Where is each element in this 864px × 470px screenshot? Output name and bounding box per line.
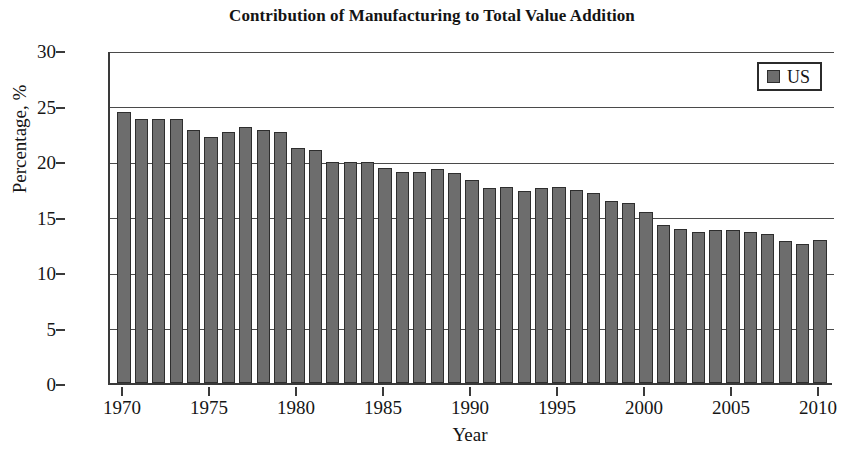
x-tick-label-1985: 1985 bbox=[343, 398, 423, 417]
bar-1981 bbox=[309, 150, 322, 383]
y-tick-mark-30 bbox=[56, 51, 65, 53]
y-tick-label-5: 5 bbox=[10, 320, 56, 339]
bar-2002 bbox=[674, 229, 687, 383]
bar-1992 bbox=[500, 187, 513, 383]
bar-2007 bbox=[761, 234, 774, 383]
x-tick-mark-1970 bbox=[121, 387, 123, 396]
bar-1973 bbox=[170, 119, 183, 383]
x-tick-label-1995: 1995 bbox=[517, 398, 597, 417]
bar-1996 bbox=[570, 190, 583, 383]
x-tick-label-2000: 2000 bbox=[604, 398, 684, 417]
bar-1995 bbox=[552, 187, 565, 383]
bar-1975 bbox=[204, 137, 217, 383]
gridline-y-20 bbox=[110, 163, 834, 164]
x-tick-label-1975: 1975 bbox=[169, 398, 249, 417]
chart-figure: Contribution of Manufacturing to Total V… bbox=[0, 0, 864, 470]
bar-2000 bbox=[639, 212, 652, 383]
bar-2001 bbox=[657, 225, 670, 383]
plot-area bbox=[108, 52, 832, 385]
bar-1977 bbox=[239, 127, 252, 383]
x-tick-mark-2010 bbox=[817, 387, 819, 396]
x-tick-label-1980: 1980 bbox=[256, 398, 336, 417]
bar-2009 bbox=[796, 244, 809, 383]
bar-1980 bbox=[291, 148, 304, 383]
bar-1991 bbox=[483, 188, 496, 383]
gridline-y-25 bbox=[110, 107, 834, 108]
bar-1979 bbox=[274, 132, 287, 383]
y-tick-mark-0 bbox=[56, 384, 65, 386]
bar-1972 bbox=[152, 119, 165, 383]
gridline-y-30 bbox=[110, 52, 834, 53]
x-tick-mark-1985 bbox=[382, 387, 384, 396]
x-tick-label-1990: 1990 bbox=[430, 398, 510, 417]
x-tick-label-1970: 1970 bbox=[82, 398, 162, 417]
x-tick-mark-2005 bbox=[730, 387, 732, 396]
bar-1985 bbox=[378, 168, 391, 383]
x-tick-label-2005: 2005 bbox=[691, 398, 771, 417]
x-axis: 197019751980198519901995200020052010 bbox=[108, 387, 838, 427]
legend: US bbox=[757, 62, 822, 91]
legend-label-us: US bbox=[787, 68, 810, 86]
bar-1970 bbox=[117, 112, 130, 383]
bar-2005 bbox=[726, 230, 739, 383]
x-axis-title: Year bbox=[108, 424, 832, 446]
y-axis-title: Percentage, % bbox=[9, 0, 31, 279]
bar-1999 bbox=[622, 203, 635, 383]
y-tick-mark-15 bbox=[56, 218, 65, 220]
bar-1984 bbox=[361, 162, 374, 383]
bar-1987 bbox=[413, 172, 426, 383]
bar-1986 bbox=[396, 172, 409, 383]
bar-2003 bbox=[692, 232, 705, 383]
legend-swatch-us bbox=[767, 70, 780, 83]
x-tick-mark-1995 bbox=[556, 387, 558, 396]
bar-1978 bbox=[257, 130, 270, 383]
bar-1997 bbox=[587, 193, 600, 383]
y-tick-mark-10 bbox=[56, 273, 65, 275]
bar-2010 bbox=[813, 240, 826, 383]
bar-1994 bbox=[535, 188, 548, 383]
x-tick-mark-1990 bbox=[469, 387, 471, 396]
bar-1989 bbox=[448, 173, 461, 383]
x-tick-mark-1975 bbox=[208, 387, 210, 396]
y-tick-mark-25 bbox=[56, 107, 65, 109]
bar-1983 bbox=[344, 162, 357, 383]
bar-1998 bbox=[605, 201, 618, 383]
bar-1988 bbox=[431, 169, 444, 383]
bar-1990 bbox=[465, 180, 478, 383]
bar-2004 bbox=[709, 230, 722, 383]
y-tick-label-0: 0 bbox=[10, 375, 56, 394]
x-tick-mark-2000 bbox=[643, 387, 645, 396]
bar-2006 bbox=[744, 232, 757, 383]
bar-1974 bbox=[187, 130, 200, 383]
bar-1993 bbox=[518, 191, 531, 383]
y-tick-mark-5 bbox=[56, 329, 65, 331]
x-tick-label-2010: 2010 bbox=[778, 398, 858, 417]
bar-1976 bbox=[222, 132, 235, 383]
bar-1982 bbox=[326, 162, 339, 383]
y-tick-mark-20 bbox=[56, 162, 65, 164]
bar-2008 bbox=[779, 241, 792, 383]
chart-title: Contribution of Manufacturing to Total V… bbox=[0, 6, 864, 26]
bar-1971 bbox=[135, 119, 148, 383]
x-tick-mark-1980 bbox=[295, 387, 297, 396]
